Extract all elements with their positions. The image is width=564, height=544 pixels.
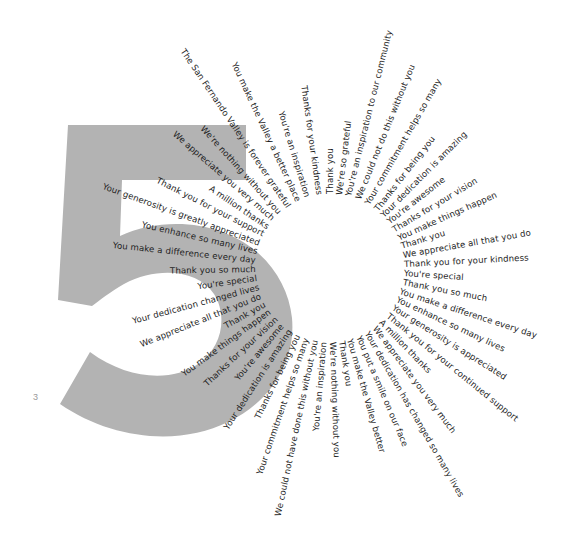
thank-you-phrase: Thank you so much — [170, 264, 256, 275]
radial-thank-you-burst: Thank youWe're so gratefulYou're an insp… — [0, 0, 564, 544]
thank-you-phrase: Thank you — [325, 148, 335, 194]
